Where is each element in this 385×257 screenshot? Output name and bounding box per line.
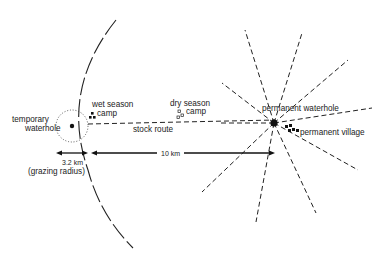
grazing-distance-label: 3.2 km — [62, 159, 83, 166]
temporary-waterhole-label: temporary — [12, 115, 50, 124]
wet-season-camp-label: wet season — [91, 100, 134, 109]
pastoral-movement-diagram: temporary waterhole wet season camp dry … — [0, 0, 385, 257]
wet-season-camp-label-2: camp — [97, 109, 117, 118]
wet-season-camp-icon — [89, 112, 96, 119]
stock-route-label: stock route — [133, 125, 173, 134]
grazing-radius-arrow — [56, 151, 88, 156]
dry-season-camp-label-2: camp — [186, 107, 206, 116]
permanent-village-icon — [285, 124, 299, 132]
dry-season-camp-icon — [177, 110, 183, 118]
distance-arrow — [91, 151, 275, 156]
permanent-village-label: permanent village — [300, 128, 365, 137]
main-distance-label: 10 km — [161, 150, 180, 157]
permanent-waterhole-label: permanent waterhole — [262, 104, 339, 113]
temporary-waterhole-dot — [70, 124, 74, 128]
grazing-radius-label: (grazing radius) — [28, 167, 85, 176]
temporary-waterhole-label-2: waterhole — [24, 124, 61, 133]
permanent-waterhole-dot — [270, 119, 277, 126]
range-boundary-arc — [79, 20, 133, 248]
